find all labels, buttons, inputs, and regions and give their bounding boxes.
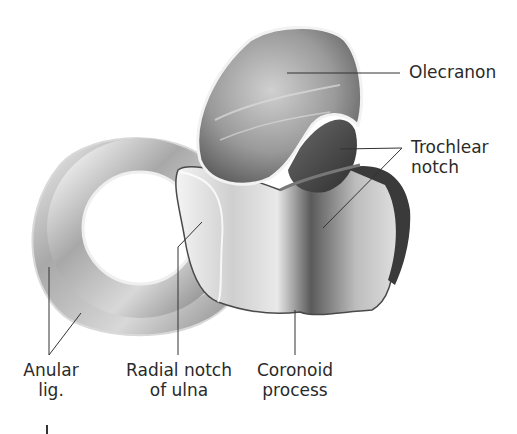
label-coronoid-process: Coronoid process xyxy=(254,360,336,400)
label-coronoid-line2: process xyxy=(254,380,336,400)
label-anular-lig: Anular lig. xyxy=(20,360,82,400)
stray-mark xyxy=(46,425,48,434)
label-trochlear-notch: Trochlear notch xyxy=(411,137,489,177)
label-trochlear-line1: Trochlear xyxy=(411,137,489,157)
label-radial-line1: Radial notch xyxy=(124,360,234,380)
label-olecranon-line1: Olecranon xyxy=(409,62,496,82)
leader-anular-b xyxy=(49,313,81,355)
ulna-body-shape xyxy=(176,166,410,315)
label-trochlear-line2: notch xyxy=(411,157,489,177)
label-coronoid-line1: Coronoid xyxy=(254,360,336,380)
label-olecranon: Olecranon xyxy=(409,62,496,82)
label-radial-notch: Radial notch of ulna xyxy=(124,360,234,400)
label-anular-line1: Anular xyxy=(20,360,82,380)
label-radial-line2: of ulna xyxy=(124,380,234,400)
label-anular-line2: lig. xyxy=(20,380,82,400)
